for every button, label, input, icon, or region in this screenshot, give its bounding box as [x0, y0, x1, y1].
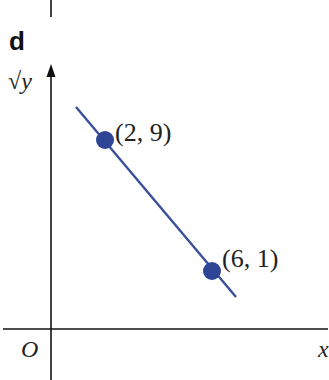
origin-label: O	[21, 336, 38, 363]
data-point-6-1	[203, 262, 221, 280]
y-axis-arrow-icon	[47, 64, 56, 77]
y-axis-label: √y	[8, 68, 32, 95]
panel-label: d	[9, 26, 25, 57]
x-axis-label: x	[318, 336, 329, 363]
point-label-2-9: (2, 9)	[115, 118, 171, 148]
data-point-2-9	[96, 131, 114, 149]
point-label-6-1: (6, 1)	[222, 244, 278, 274]
